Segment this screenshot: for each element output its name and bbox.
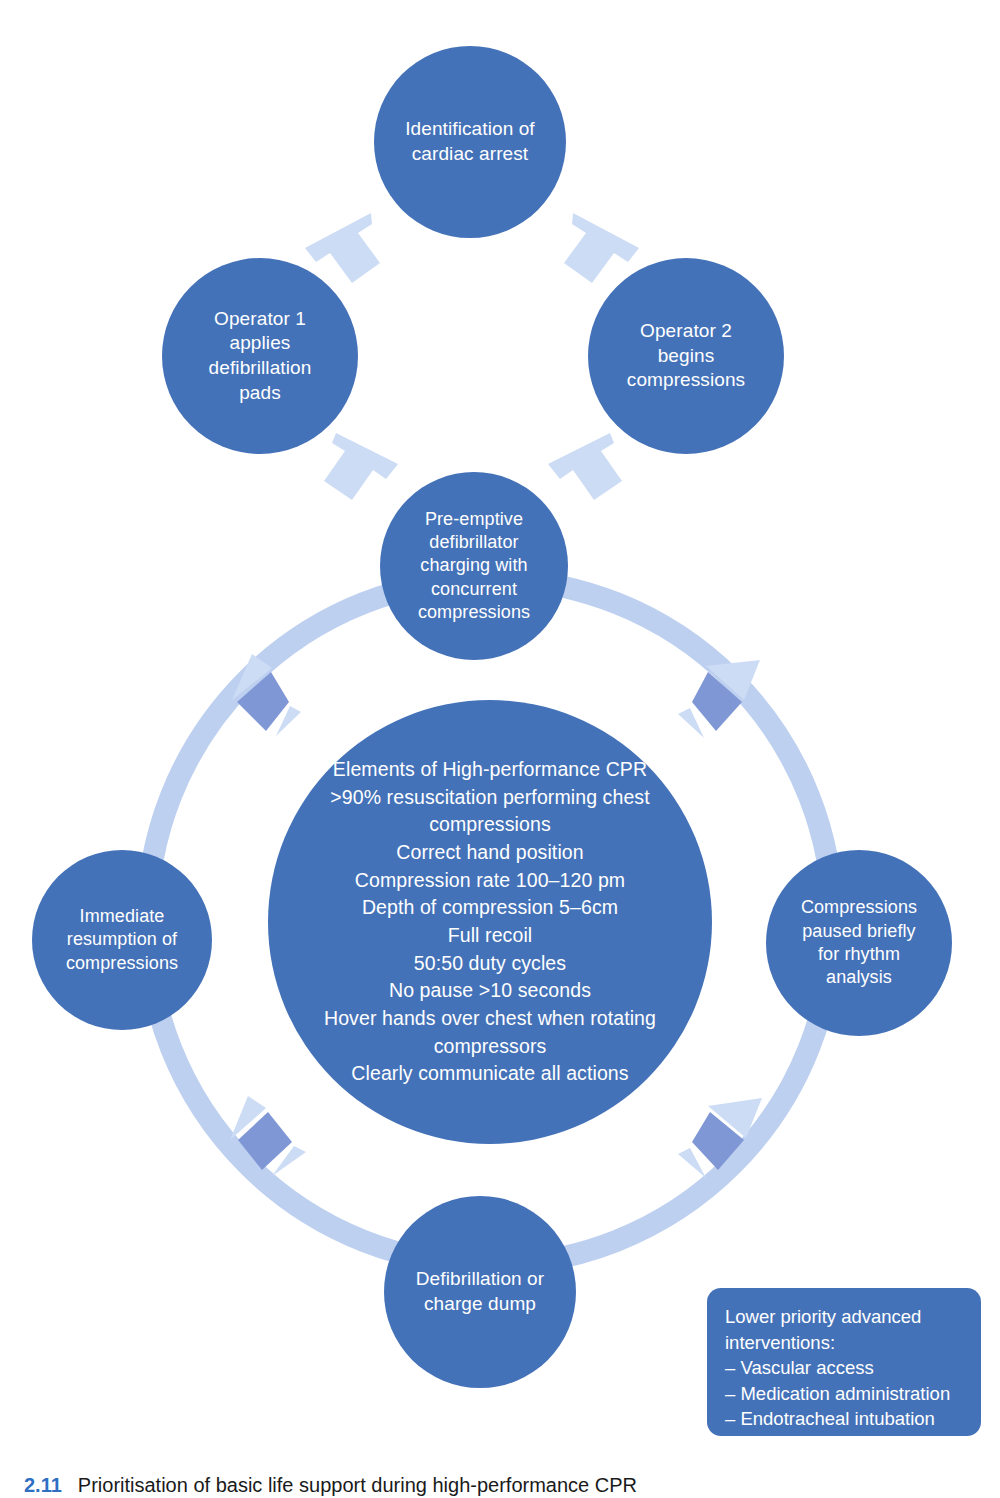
legend-title-line-1: Lower priority advanced bbox=[725, 1304, 965, 1330]
node-preemptive-label: Pre-emptive defibrillator charging with … bbox=[412, 508, 536, 625]
node-defibrillation-or-charge-dump[interactable]: Defibrillation or charge dump bbox=[384, 1196, 576, 1388]
node-immediate-label: Immediate resumption of compressions bbox=[60, 905, 184, 975]
figure-number: 2.11 bbox=[24, 1474, 62, 1496]
figure-caption-text: Prioritisation of basic life support dur… bbox=[78, 1474, 637, 1496]
legend-lower-priority-interventions: Lower priority advanced interventions: –… bbox=[707, 1288, 981, 1436]
figure-caption: 2.11Prioritisation of basic life support… bbox=[24, 1472, 976, 1498]
node-identification-label: Identification of cardiac arrest bbox=[399, 117, 541, 166]
node-paused-label: Compressions paused briefly for rhythm a… bbox=[795, 896, 923, 990]
legend-item-vascular-access: – Vascular access bbox=[725, 1355, 965, 1381]
node-compressions-paused-for-rhythm-analysis[interactable]: Compressions paused briefly for rhythm a… bbox=[766, 850, 952, 1036]
node-preemptive-defibrillator-charging[interactable]: Pre-emptive defibrillator charging with … bbox=[380, 472, 568, 660]
node-identification-of-cardiac-arrest[interactable]: Identification of cardiac arrest bbox=[374, 46, 566, 238]
chevron-identification-to-operator1 bbox=[305, 213, 380, 283]
node-operator-2-begins-compressions[interactable]: Operator 2 begins compressions bbox=[588, 258, 784, 454]
node-operator1-label: Operator 1 applies defibrillation pads bbox=[203, 307, 318, 406]
legend-item-endotracheal-intubation: – Endotracheal intubation bbox=[725, 1406, 965, 1432]
legend-item-medication-administration: – Medication administration bbox=[725, 1381, 965, 1407]
chevron-operator1-to-preemptive bbox=[324, 433, 398, 500]
node-operator2-label: Operator 2 begins compressions bbox=[621, 319, 751, 393]
legend-title-line-2: interventions: bbox=[725, 1330, 965, 1356]
node-defibrillation-label: Defibrillation or charge dump bbox=[410, 1267, 550, 1316]
node-elements-of-high-performance-cpr[interactable]: Elements of High-performance CPR >90% re… bbox=[268, 700, 712, 1144]
node-operator-1-applies-defibrillation-pads[interactable]: Operator 1 applies defibrillation pads bbox=[162, 258, 358, 454]
chevron-identification-to-operator2 bbox=[564, 213, 639, 283]
chevron-operator2-to-preemptive bbox=[548, 433, 622, 500]
node-immediate-resumption-of-compressions[interactable]: Immediate resumption of compressions bbox=[32, 850, 212, 1030]
node-center-label: Elements of High-performance CPR >90% re… bbox=[308, 756, 672, 1088]
